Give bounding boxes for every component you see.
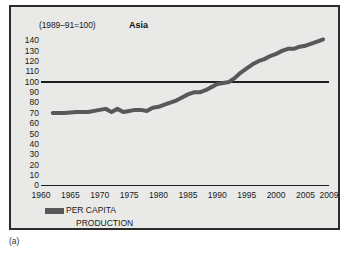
chart-plot-background: (1989–91=100) Asia 010203040506070809010… [11,7,338,228]
legend-label-line-1: PER CAPITA [66,205,116,215]
figure-container: (1989–91=100) Asia 010203040506070809010… [0,0,348,257]
plot-area: 0102030405060708090100110120130140 19601… [11,7,342,232]
series-line-chart [11,7,342,232]
per-capita-production-line [53,39,323,113]
chart-panel: (1989–91=100) Asia 010203040506070809010… [9,5,340,230]
legend-swatch-per-capita-production [45,208,64,214]
legend-label-line-2: PRODUCTION [76,218,133,228]
figure-caption: (a) [9,236,19,246]
